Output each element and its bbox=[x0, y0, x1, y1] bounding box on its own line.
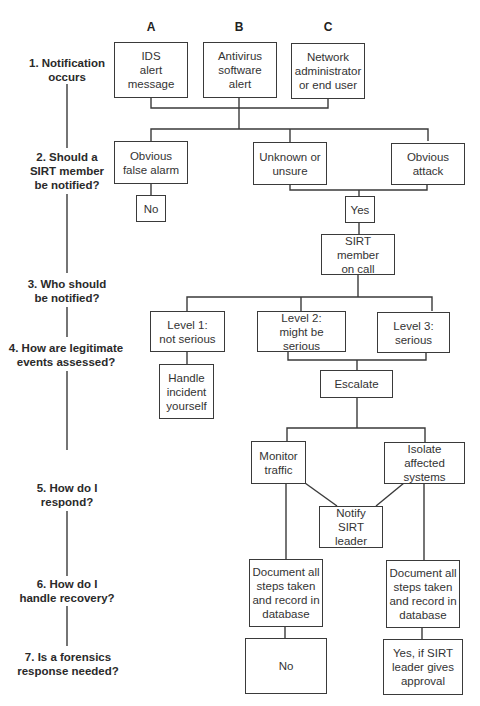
column-header-b: B bbox=[229, 20, 249, 34]
node-network-admin: Network administrator or end user bbox=[291, 43, 365, 99]
node-document-left: Document all steps taken and record in d… bbox=[249, 559, 323, 627]
node-sirt-member-on-call: SIRT member on call bbox=[321, 234, 395, 275]
node-notify-sirt-leader: Notify SIRT leader bbox=[319, 506, 383, 548]
step-4-label: 4. How are legitimate events assessed? bbox=[2, 341, 130, 369]
column-header-a: A bbox=[141, 20, 161, 34]
column-header-c: C bbox=[318, 20, 338, 34]
node-unknown-or-unsure: Unknown or unsure bbox=[253, 142, 327, 185]
node-obvious-false-alarm: Obvious false alarm bbox=[114, 141, 188, 184]
step-2-label: 2. Should a SIRT member be notified? bbox=[12, 150, 122, 192]
incident-response-flowchart: A B C 1. Notification occurs 2. Should a… bbox=[0, 0, 480, 706]
node-yes-notify: Yes bbox=[345, 196, 375, 223]
step-1-label: 1. Notification occurs bbox=[12, 56, 122, 84]
step-6-label: 6. How do I handle recovery? bbox=[8, 577, 126, 605]
node-document-right: Document all steps taken and record in d… bbox=[386, 560, 460, 628]
node-antivirus-alert: Antivirus software alert bbox=[203, 42, 277, 98]
node-obvious-attack: Obvious attack bbox=[391, 143, 465, 185]
node-level-2: Level 2: might be serious bbox=[257, 311, 346, 352]
step-3-label: 3. Who should be notified? bbox=[8, 277, 126, 305]
node-escalate: Escalate bbox=[320, 370, 393, 398]
node-no-notify: No bbox=[136, 195, 166, 222]
node-isolate-affected-systems: Isolate affected systems bbox=[384, 442, 465, 484]
node-handle-incident-yourself: Handle incident yourself bbox=[159, 364, 214, 419]
node-forensics-no: No bbox=[245, 638, 327, 694]
step-7-label: 7. Is a forensics response needed? bbox=[8, 650, 128, 678]
node-forensics-yes: Yes, if SIRT leader gives approval bbox=[383, 639, 463, 695]
step-5-label: 5. How do I respond? bbox=[10, 481, 124, 509]
node-ids-alert: IDS alert message bbox=[114, 42, 188, 98]
node-level-1: Level 1: not serious bbox=[150, 311, 225, 352]
node-monitor-traffic: Monitor traffic bbox=[251, 441, 306, 484]
node-level-3: Level 3: serious bbox=[377, 312, 450, 353]
